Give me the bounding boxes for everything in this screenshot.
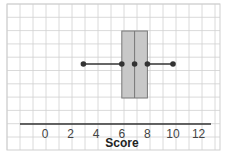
x-tick-label: 12 <box>192 127 206 141</box>
point-min <box>81 61 87 67</box>
x-tick-label: 8 <box>144 127 151 141</box>
grid-lines <box>7 4 220 150</box>
plot-border <box>7 4 220 150</box>
point-median <box>132 61 138 67</box>
point-q3 <box>145 61 151 67</box>
box-plot-chart: 024681012 Score <box>0 0 227 154</box>
x-tick-label: 10 <box>166 127 180 141</box>
point-q1 <box>119 61 125 67</box>
box-plot <box>81 31 176 98</box>
x-axis-label: Score <box>105 136 139 150</box>
x-tick-label: 2 <box>67 127 74 141</box>
x-tick-label: 0 <box>42 127 49 141</box>
x-tick-label: 4 <box>93 127 100 141</box>
point-max <box>170 61 176 67</box>
